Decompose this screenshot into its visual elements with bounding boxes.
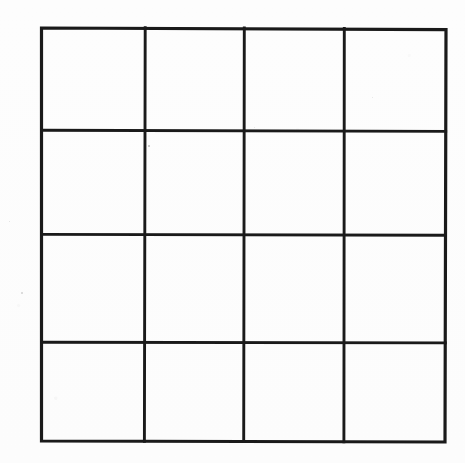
grid-cell-r4c2[interactable] <box>145 342 244 442</box>
grid-cell-r3c2[interactable] <box>145 234 244 342</box>
grid-cell-r1c1[interactable] <box>41 27 145 130</box>
grid-cell-r3c3[interactable] <box>244 234 344 342</box>
grid-cell-r3c4[interactable] <box>344 234 446 342</box>
grid-container <box>0 0 465 463</box>
grid-cell-r1c3[interactable] <box>244 27 344 130</box>
grid-cell-r2c4[interactable] <box>344 130 446 234</box>
grid-horizontal-divider-3 <box>42 342 445 343</box>
grid-cell-r2c2[interactable] <box>145 130 244 234</box>
grid-horizontal-divider-2 <box>42 234 446 235</box>
grid-cell-r1c2[interactable] <box>145 27 244 130</box>
grid-svg <box>0 0 465 463</box>
grid-cell-r2c1[interactable] <box>41 130 145 234</box>
page-canvas <box>0 0 465 463</box>
grid-horizontal-divider-1 <box>42 130 446 131</box>
grid-cell-r4c1[interactable] <box>41 342 145 442</box>
grid-cell-r4c3[interactable] <box>244 342 344 442</box>
grid-cell-r1c4[interactable] <box>344 27 446 130</box>
grid-cell-r3c1[interactable] <box>41 234 145 342</box>
grid-cell-r4c4[interactable] <box>344 342 446 442</box>
grid-cell-r2c3[interactable] <box>244 130 344 234</box>
